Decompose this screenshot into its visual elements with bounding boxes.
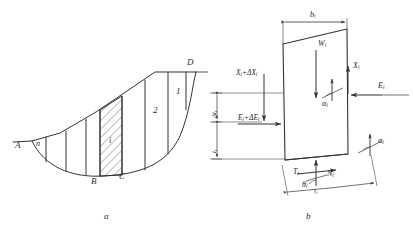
label-alpha-upper: αi xyxy=(322,100,328,109)
label-slice-2: 2 xyxy=(153,106,158,115)
angle-marker-alpha-upper xyxy=(322,79,343,101)
label-shear-left: Xi+ΔXi xyxy=(236,69,257,77)
label-height-delta: Δti xyxy=(211,111,219,118)
figure-slope-stability: A n B C D i 2 1 a bi Wi Xi+ΔXi Ei+ΔEi Xi… xyxy=(0,0,413,243)
label-base-angle-theta: θi xyxy=(302,181,307,190)
label-slice-1: 1 xyxy=(176,87,181,96)
slice-base-line xyxy=(285,154,348,160)
label-point-c: C xyxy=(119,172,125,181)
label-point-a: A xyxy=(15,141,21,150)
label-base-shear-t: Ti xyxy=(293,168,299,177)
caption-panel-a: a xyxy=(104,212,109,221)
label-point-b: B xyxy=(91,177,97,186)
figure-vector-canvas xyxy=(0,0,413,243)
label-width-b: bi xyxy=(310,11,316,20)
label-weight-w: Wi xyxy=(318,40,326,49)
label-slice-i: i xyxy=(109,137,111,145)
label-slice-n: n xyxy=(36,140,40,148)
label-normal-right: Ei xyxy=(378,82,384,91)
label-shear-right: Xi xyxy=(353,62,359,71)
label-alpha-lower: αi xyxy=(378,137,384,146)
label-height-t: ti xyxy=(211,150,219,153)
label-normal-left: Ei+ΔEi xyxy=(238,114,259,122)
label-base-length-l: li xyxy=(314,188,317,196)
caption-panel-b: b xyxy=(306,212,311,221)
dimension-heights xyxy=(210,93,285,159)
label-base-normal-n: Ni xyxy=(327,170,334,179)
label-point-d: D xyxy=(187,58,194,67)
